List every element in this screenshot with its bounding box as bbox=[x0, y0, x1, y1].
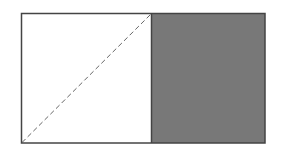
right-square-shaded bbox=[152, 14, 266, 144]
diagram-canvas bbox=[0, 0, 289, 146]
